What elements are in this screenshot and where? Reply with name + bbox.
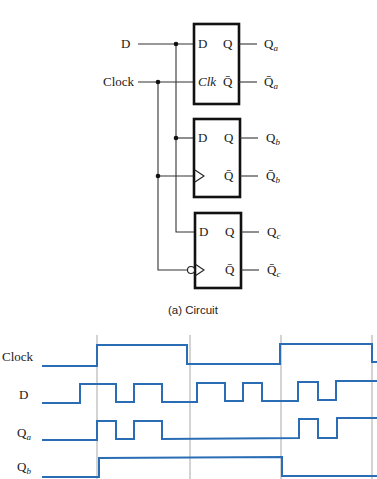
ffc-d-pin: D [199, 224, 208, 239]
circuit-and-timing-figure: D Clock D Clk Q Q̄ Qa Q̄a [0, 0, 377, 479]
ffc-q-pin: Q [225, 224, 235, 239]
timing-label-qb: Qb [17, 459, 31, 476]
ffc-qbar-pin: Q̄ [225, 262, 235, 277]
timing-label-qa: Qa [17, 425, 31, 442]
circuit-caption: (a) Circuit [168, 304, 219, 316]
latch-a-qbar-pin: Q̄ [223, 74, 233, 89]
ffb-q-pin: Q [224, 130, 234, 145]
output-qc-bar-label: Q̄c [267, 262, 280, 279]
output-qa-label: Qa [264, 36, 278, 53]
output-qb-label: Qb [266, 130, 280, 147]
timing-label-clock: Clock [2, 349, 34, 364]
inverter-bubble-icon [188, 267, 195, 274]
ffb-qbar-pin: Q̄ [224, 168, 234, 183]
d-waveform [42, 381, 377, 403]
output-qa-bar-label: Q̄a [264, 74, 278, 91]
junction-dot [156, 174, 161, 179]
flipflop-b: D Q Q̄ Qb Q̄b [194, 119, 280, 197]
output-qb-bar-label: Q̄b [266, 168, 280, 185]
clock-waveform [42, 344, 377, 366]
d-input-label: D [121, 36, 130, 51]
qb-waveform [42, 457, 377, 477]
flipflop-c: D Q Q̄ Qc Q̄c [188, 213, 281, 288]
latch-a-clk-pin: Clk [198, 74, 216, 89]
ffb-d-pin: D [198, 130, 207, 145]
junction-dot [174, 136, 179, 141]
latch-a-d-pin: D [198, 36, 207, 51]
latch-a-q-pin: Q [223, 36, 233, 51]
timing-label-d: D [19, 387, 28, 402]
junction-dot [156, 80, 161, 85]
clock-input-label: Clock [103, 74, 135, 89]
latch-a: D Clk Q Q̄ Qa Q̄a [194, 24, 278, 104]
timing-diagram: Clock D Qa Qb [2, 335, 377, 479]
output-qc-label: Qc [267, 224, 280, 241]
circuit: D Clock D Clk Q Q̄ Qa Q̄a [103, 24, 280, 316]
junction-dot [174, 42, 179, 47]
qa-waveform [42, 418, 377, 440]
